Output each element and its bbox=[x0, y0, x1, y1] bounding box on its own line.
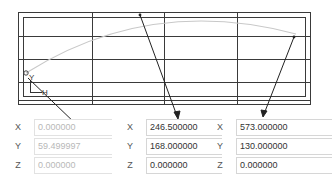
spline-curve[interactable] bbox=[26, 21, 296, 73]
leader-lines bbox=[28, 15, 294, 128]
point-2-y-field[interactable]: 168.000000 bbox=[146, 138, 222, 155]
axis-label-x: X bbox=[214, 122, 226, 132]
arrowhead-2 bbox=[174, 111, 180, 119]
control-points bbox=[24, 14, 296, 76]
axis-label-z: Z bbox=[214, 160, 226, 170]
axis-gizmo: Y H bbox=[29, 73, 48, 97]
point-2-x-row: X 246.500000 bbox=[124, 119, 224, 136]
axis-label-z: Z bbox=[124, 160, 136, 170]
point-3-z-field[interactable]: 0.000000 bbox=[236, 157, 332, 174]
point-1-z-field[interactable]: 0.000000 bbox=[34, 157, 112, 174]
point-2-z-row: Z 0.000000 bbox=[124, 157, 224, 174]
point-1-x-row: X 0.000000 bbox=[12, 119, 112, 136]
axis-label-y: Y bbox=[12, 141, 24, 151]
leader-line-3 bbox=[264, 37, 294, 114]
point-3-y-field[interactable]: 130.000000 bbox=[236, 138, 332, 155]
axis-label-y: Y bbox=[214, 141, 226, 151]
point-3-z-row: Z 0.000000 bbox=[214, 157, 332, 174]
axis-label-z: Z bbox=[12, 160, 24, 170]
point-2-x-field[interactable]: 246.500000 bbox=[146, 119, 222, 136]
point-1-x-field[interactable]: 0.000000 bbox=[34, 119, 112, 136]
point-2-z-field[interactable]: 0.000000 bbox=[146, 157, 222, 174]
point-3-x-field[interactable]: 573.000000 bbox=[236, 119, 332, 136]
arrowhead-3 bbox=[261, 110, 267, 117]
axis-label-y: Y bbox=[124, 141, 136, 151]
axis-y-label: Y bbox=[29, 73, 35, 82]
point-2-y-row: Y 168.000000 bbox=[124, 138, 224, 155]
point-1-y-row: Y 59.499997 bbox=[12, 138, 112, 155]
axis-label-x: X bbox=[124, 122, 136, 132]
point-3-x-row: X 573.000000 bbox=[214, 119, 332, 136]
axis-label-x: X bbox=[12, 122, 24, 132]
point-1-y-field[interactable]: 59.499997 bbox=[34, 138, 112, 155]
grid bbox=[18, 12, 311, 105]
point-1-z-row: Z 0.000000 bbox=[12, 157, 112, 174]
point-3-y-row: Y 130.000000 bbox=[214, 138, 332, 155]
